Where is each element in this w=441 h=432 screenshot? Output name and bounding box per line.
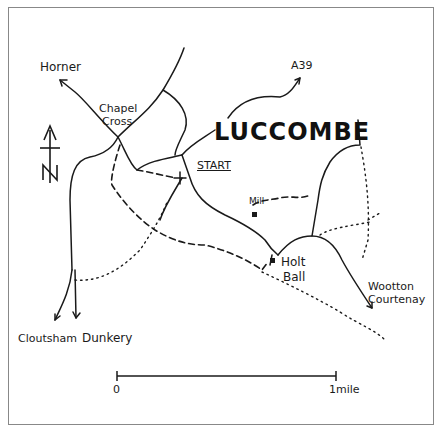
road-luccombe [182,130,215,155]
scale-end-label: 1mile [329,384,360,395]
road-a39 [228,78,300,118]
road-dunkery [75,270,76,318]
label-a39: A39 [291,60,313,71]
road-cloutsham [55,270,72,320]
label-mill: Mill [249,197,264,206]
scale-bar [117,371,336,381]
label-start: START [197,160,231,171]
road-west [70,137,118,270]
label-dunkery: Dunkery [82,332,132,344]
label-courtenay: Courtenay [368,294,425,305]
label-chapel: Chapel [99,103,137,114]
holt-ball-building [270,258,275,263]
label-wootton: Wootton [368,281,414,292]
scale-start-label: 0 [113,384,120,395]
label-cloutsham: Cloutsham [18,333,77,344]
walk-route [112,145,268,270]
footpath-west [75,200,168,280]
label-horner: Horner [40,61,81,73]
mill-building [252,212,257,217]
label-holt: Holt [281,256,305,268]
label-cross: Cross [102,116,132,127]
map-title: LUCCOMBE [214,120,370,144]
footpath-east [361,147,368,240]
north-arrow-icon [40,126,60,183]
label-ball: Ball [283,271,305,283]
road-chapel-start [118,137,182,170]
